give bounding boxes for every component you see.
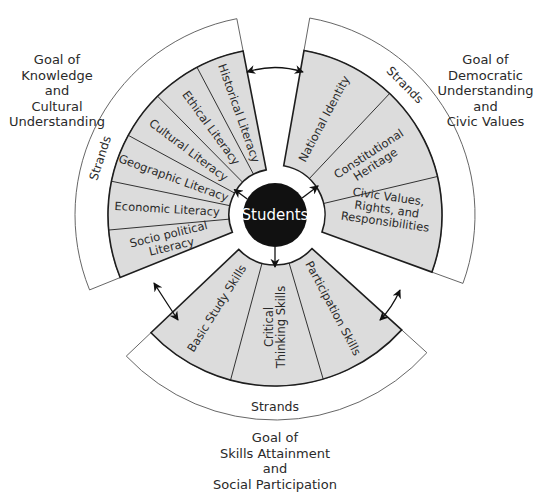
double-arrow-knowledge-skills [154,283,178,320]
students-label: Students [242,206,309,224]
goal-knowledge-label: Goal of Knowledge and Cultural Understan… [2,52,112,130]
ring-label-skills: Strands [251,399,299,414]
arrow-to-knowledge [234,190,247,199]
double-arrow-knowledge-democratic [247,68,303,73]
goal-democratic-label: Goal of Democratic Understanding and Civ… [428,52,543,130]
goal-skills-label: Goal of Skills Attainment and Social Par… [185,430,365,492]
students-hub: Students [242,183,309,247]
arrow-to-democratic [302,186,318,198]
